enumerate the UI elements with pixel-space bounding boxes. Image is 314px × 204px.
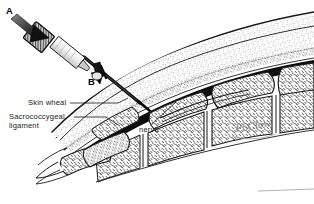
label-sacrococcygeal-line2: ligament [9,121,39,130]
marker-b-label: B [88,77,95,86]
footer-rule [258,189,314,191]
marker-a-label: A [6,6,13,15]
label-skin-wheal: Skin wheal [28,99,66,108]
caudal-block-figure: PSClow A B Skin wheal Sacrococcygealliga… [0,0,314,204]
label-sacrococcygeal-ligament: Sacrococcygealligament [9,113,65,130]
label-nerve: nerve [139,126,159,135]
